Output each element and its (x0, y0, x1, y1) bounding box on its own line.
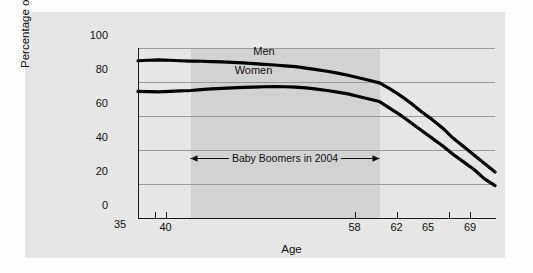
y-tick-label-20: 20 (96, 165, 108, 177)
y-axis-title: Percentage of population (19, 0, 31, 84)
x-tick-label-69: 69 (464, 221, 476, 233)
series-label-men: Men (253, 45, 274, 57)
y-tick-label-80: 80 (96, 63, 108, 75)
series-label-women: Women (235, 64, 273, 76)
x-tick-mark-69 (470, 212, 471, 219)
x-tick-label-58: 58 (348, 221, 360, 233)
y-tick-label-0: 0 (102, 199, 108, 211)
baby-boomer-annotation-label: Baby Boomers in 2004 (229, 152, 341, 164)
x-tick-label-62: 62 (390, 221, 402, 233)
chart-panel: Percentage of population 020406080100 Me… (25, 12, 505, 258)
plot-area: MenWomen Baby Boomers in 2004 (138, 48, 495, 218)
x-axis-title: Age (25, 243, 533, 255)
x-tick-mark-67 (449, 212, 450, 219)
annotation-arrow-head (191, 155, 198, 161)
chart-figure: Percentage of population 020406080100 Me… (0, 0, 533, 273)
x-axis-line (138, 218, 496, 219)
x-tick-mark-58 (355, 212, 356, 219)
annotation-arrow-head (373, 155, 380, 161)
y-axis-line (138, 48, 139, 218)
y-tick-label-100: 100 (90, 29, 108, 41)
y-tick-label-40: 40 (96, 131, 108, 143)
x-tick-label-40: 40 (159, 221, 171, 233)
x-tick-label-65: 65 (422, 221, 434, 233)
x-tick-label-35: 35 (114, 218, 126, 230)
x-tick-mark-39 (155, 212, 156, 219)
y-tick-label-60: 60 (96, 97, 108, 109)
x-tick-mark-40 (166, 212, 167, 219)
baby-boomer-arrow (138, 48, 495, 218)
x-tick-mark-62 (397, 212, 398, 219)
